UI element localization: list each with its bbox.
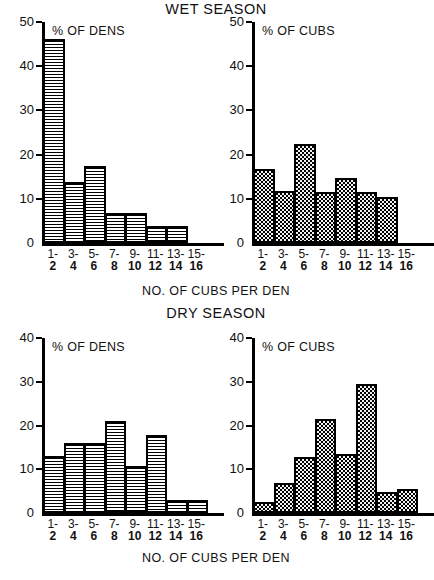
bar-wet-cubs-7-8 — [315, 192, 337, 243]
x-axis-wet-cubs — [252, 243, 434, 246]
bar-dry-dens-15-16 — [187, 500, 209, 513]
bar-wet-cubs-1-2 — [253, 169, 275, 243]
bar-wet-cubs-13-14 — [376, 197, 398, 243]
y-tick-wet-cubs-20 — [246, 154, 252, 156]
bar-wet-cubs-5-6 — [294, 144, 316, 243]
bar-dry-cubs-11-12 — [356, 384, 378, 513]
y-tick-label-wet-dens-20: 20 — [0, 147, 34, 162]
bar-wet-cubs-3-4 — [274, 191, 296, 243]
dry-season-title: DRY SEASON — [0, 305, 432, 321]
x-tick-label-line2: 16 — [392, 260, 422, 272]
y-tick-dry-dens-10 — [36, 468, 42, 470]
x-tick-label-wet-cubs-15-16: 15-16 — [392, 248, 422, 272]
y-tick-dry-dens-30 — [36, 381, 42, 383]
y-tick-label-wet-cubs-20: 20 — [206, 147, 244, 162]
x-tick-label-dry-cubs-15-16: 15-16 — [392, 518, 422, 542]
bars-wet-dens — [43, 22, 207, 243]
y-tick-label-wet-dens-50: 50 — [0, 14, 34, 29]
y-tick-label-dry-dens-0: 0 — [0, 505, 34, 520]
bar-dry-cubs-7-8 — [315, 419, 337, 513]
bar-dry-dens-9-10 — [125, 466, 147, 513]
y-tick-dry-cubs-30 — [246, 381, 252, 383]
y-tick-wet-cubs-10 — [246, 198, 252, 200]
y-tick-dry-cubs-40 — [246, 337, 252, 339]
y-tick-label-dry-cubs-30: 30 — [206, 374, 244, 389]
bars-dry-cubs — [253, 338, 417, 513]
y-tick-dry-dens-20 — [36, 425, 42, 427]
bar-dry-dens-5-6 — [84, 443, 106, 513]
y-tick-label-wet-cubs-10: 10 — [206, 191, 244, 206]
y-tick-wet-dens-20 — [36, 154, 42, 156]
y-tick-wet-cubs-50 — [246, 21, 252, 23]
bar-wet-dens-5-6 — [84, 166, 106, 243]
y-tick-dry-cubs-10 — [246, 468, 252, 470]
y-tick-label-dry-dens-20: 20 — [0, 418, 34, 433]
y-tick-label-wet-dens-30: 30 — [0, 102, 34, 117]
bar-dry-dens-1-2 — [43, 456, 65, 513]
x-axis-wet-dens — [42, 243, 224, 246]
y-tick-label-dry-cubs-40: 40 — [206, 330, 244, 345]
bar-wet-dens-11-12 — [146, 226, 168, 243]
y-tick-wet-cubs-40 — [246, 65, 252, 67]
y-tick-label-dry-dens-10: 10 — [0, 461, 34, 476]
bar-dry-cubs-9-10 — [335, 454, 357, 513]
bar-wet-dens-3-4 — [64, 182, 86, 243]
x-axis-caption-dry: NO. OF CUBS PER DEN — [0, 551, 432, 565]
y-tick-wet-dens-50 — [36, 21, 42, 23]
x-tick-label-wet-dens-15-16: 15-16 — [182, 248, 212, 272]
y-tick-dry-cubs-20 — [246, 425, 252, 427]
bar-dry-dens-7-8 — [105, 421, 127, 513]
y-tick-label-dry-dens-40: 40 — [0, 330, 34, 345]
y-tick-label-wet-cubs-0: 0 — [206, 235, 244, 250]
y-tick-label-wet-cubs-40: 40 — [206, 58, 244, 73]
y-tick-label-dry-cubs-0: 0 — [206, 505, 244, 520]
bar-dry-cubs-3-4 — [274, 483, 296, 513]
bar-wet-dens-13-14 — [166, 226, 188, 243]
bar-dry-dens-11-12 — [146, 435, 168, 513]
x-axis-caption-wet: NO. OF CUBS PER DEN — [0, 284, 432, 298]
bar-wet-dens-9-10 — [125, 213, 147, 243]
bar-dry-dens-13-14 — [166, 500, 188, 513]
bar-dry-cubs-15-16 — [397, 489, 419, 513]
bar-wet-dens-7-8 — [105, 213, 127, 243]
bars-dry-dens — [43, 338, 207, 513]
y-tick-wet-dens-10 — [36, 198, 42, 200]
y-tick-label-dry-cubs-20: 20 — [206, 418, 244, 433]
bar-dry-cubs-1-2 — [253, 502, 275, 513]
x-axis-dry-dens — [42, 513, 224, 516]
y-tick-wet-cubs-30 — [246, 109, 252, 111]
y-tick-wet-dens-30 — [36, 109, 42, 111]
bar-dry-cubs-13-14 — [376, 492, 398, 513]
bar-wet-dens-1-2 — [43, 39, 65, 243]
x-axis-dry-cubs — [252, 513, 434, 516]
x-tick-label-line2: 16 — [392, 530, 422, 542]
x-tick-label-line2: 16 — [182, 530, 212, 542]
y-tick-label-dry-cubs-10: 10 — [206, 461, 244, 476]
y-tick-wet-dens-40 — [36, 65, 42, 67]
bar-dry-cubs-5-6 — [294, 457, 316, 513]
y-tick-label-wet-dens-10: 10 — [0, 191, 34, 206]
bar-dry-dens-3-4 — [64, 443, 86, 513]
x-tick-label-dry-dens-15-16: 15-16 — [182, 518, 212, 542]
bars-wet-cubs — [253, 22, 417, 243]
y-tick-label-wet-cubs-30: 30 — [206, 102, 244, 117]
bar-wet-cubs-11-12 — [356, 192, 378, 243]
bar-wet-cubs-9-10 — [335, 178, 357, 243]
y-tick-label-wet-cubs-50: 50 — [206, 14, 244, 29]
x-tick-label-line2: 16 — [182, 260, 212, 272]
y-tick-label-wet-dens-40: 40 — [0, 58, 34, 73]
y-tick-label-wet-dens-0: 0 — [0, 235, 34, 250]
y-tick-label-dry-dens-30: 30 — [0, 374, 34, 389]
y-tick-dry-dens-40 — [36, 337, 42, 339]
